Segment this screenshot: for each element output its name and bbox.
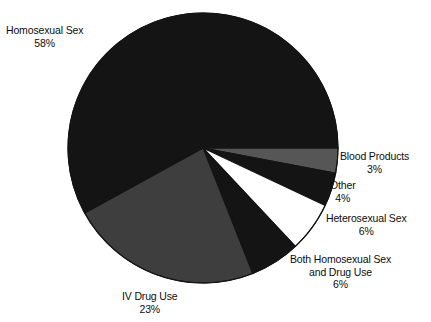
slice-label-other: Other 4% <box>330 179 356 204</box>
slice-label-name: Homosexual Sex <box>6 24 83 37</box>
slice-label-blood-products: Blood Products 3% <box>340 150 409 175</box>
slice-label-iv-drug-use: IV Drug Use 23% <box>122 290 178 315</box>
slice-label-name-line1: Both Homosexual Sex <box>290 253 391 266</box>
slice-label-value: 4% <box>330 192 356 205</box>
slice-label-homosexual-sex: Homosexual Sex 58% <box>6 24 83 49</box>
slice-label-name: Blood Products <box>340 150 409 163</box>
slice-label-value: 58% <box>6 37 83 50</box>
slice-label-name: Other <box>330 179 356 192</box>
slice-label-value: 6% <box>290 278 391 291</box>
slice-label-both-homosexual-sex-and-drug-use: Both Homosexual Sex and Drug Use 6% <box>290 253 391 291</box>
slice-label-name-line2: and Drug Use <box>290 266 391 279</box>
slice-label-name: IV Drug Use <box>122 290 178 303</box>
slice-label-name: Heterosexual Sex <box>326 212 406 225</box>
slice-label-value: 6% <box>326 225 406 238</box>
slice-label-value: 23% <box>122 303 178 316</box>
pie-chart: Homosexual Sex 58% Blood Products 3% Oth… <box>0 0 431 322</box>
slice-label-heterosexual-sex: Heterosexual Sex 6% <box>326 212 406 237</box>
pie-slice-group <box>68 13 338 283</box>
slice-label-value: 3% <box>340 163 409 176</box>
